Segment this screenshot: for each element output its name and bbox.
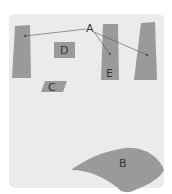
label-c: C: [48, 81, 56, 94]
label-e: E: [106, 67, 113, 80]
shape-pillar-left: [12, 25, 31, 78]
label-d: D: [60, 44, 68, 57]
leader-dot-middle: [109, 53, 111, 55]
label-b: B: [119, 157, 127, 170]
label-a: A: [86, 22, 94, 35]
diagram: A D E C B: [0, 0, 172, 194]
leader-dot-right: [146, 54, 148, 56]
leader-dot-left: [24, 35, 26, 37]
